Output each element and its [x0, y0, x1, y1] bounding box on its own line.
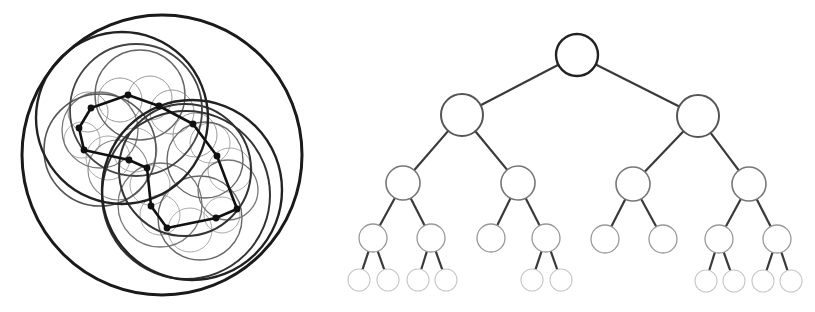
enclosing-circles	[22, 15, 302, 295]
tree-edge	[757, 199, 771, 226]
tree-edge	[526, 198, 540, 225]
path-vertex	[126, 157, 133, 164]
tree-edge	[378, 251, 385, 269]
tree-node-level-3	[359, 224, 387, 252]
path-vertex	[190, 121, 197, 128]
tree-node-level-3	[705, 225, 733, 253]
path-vertex	[81, 147, 88, 154]
tree-node-level-4	[695, 270, 717, 292]
path-vertex	[88, 105, 95, 112]
path-vertex	[156, 103, 163, 110]
tree-edge	[475, 131, 507, 170]
path-vertex	[214, 153, 221, 160]
tree-node-level-2	[732, 167, 766, 201]
tree-node-level-4	[407, 269, 429, 291]
binary-tree-diagram	[348, 34, 802, 292]
tree-edge	[380, 198, 395, 226]
tree-node-level-3	[417, 224, 445, 252]
enclosing-circle	[44, 94, 156, 206]
figure	[0, 0, 815, 312]
tree-node-level-0	[556, 34, 598, 76]
tree-edge	[414, 131, 448, 170]
tree-edge	[436, 251, 443, 269]
tree-edge	[709, 252, 715, 270]
tree-edge	[551, 251, 558, 269]
tree-node-level-4	[348, 269, 370, 291]
circle-packing-diagram	[22, 15, 302, 295]
tree-edge	[766, 252, 772, 270]
tree-node-level-3	[532, 224, 560, 252]
path-vertex	[144, 165, 151, 172]
tree-node-level-3	[591, 225, 619, 253]
tree-node-level-4	[521, 269, 543, 291]
tree-edge	[411, 198, 425, 225]
enclosing-circle	[168, 208, 212, 252]
tree-node-level-1	[441, 94, 483, 136]
tree-node-level-4	[377, 269, 399, 291]
tree-edge	[641, 199, 656, 227]
path-vertex	[148, 203, 155, 210]
tree-node-level-2	[616, 167, 650, 201]
tree-node-level-4	[550, 269, 572, 291]
tree-edge	[711, 133, 739, 171]
path-vertex	[234, 206, 241, 213]
tree-edge	[781, 252, 787, 270]
tree-node-level-3	[763, 225, 791, 253]
tree-node-level-2	[386, 166, 420, 200]
tree-node-level-4	[435, 269, 457, 291]
tree-edge	[726, 199, 741, 227]
tree-node-level-3	[477, 224, 505, 252]
tree-edge	[497, 198, 510, 225]
path-vertex	[125, 92, 132, 99]
tree-edge	[481, 65, 559, 106]
tree-edge	[362, 251, 368, 269]
tree-node-level-1	[677, 95, 719, 137]
tree-edge	[421, 251, 427, 269]
tree-edge	[611, 199, 625, 226]
tree-node-level-4	[723, 270, 745, 292]
tree-node-level-4	[780, 270, 802, 292]
tree-node-level-4	[752, 270, 774, 292]
tree-edge	[645, 131, 684, 172]
tree-node-level-3	[649, 225, 677, 253]
enclosing-circle	[173, 113, 217, 157]
tree-node-level-2	[501, 166, 535, 200]
path-vertex	[164, 225, 171, 232]
tree-edge	[596, 64, 679, 106]
tree-edge	[535, 251, 541, 269]
path-vertex	[213, 215, 220, 222]
tree-edge	[724, 252, 731, 270]
path-vertex	[76, 125, 83, 132]
